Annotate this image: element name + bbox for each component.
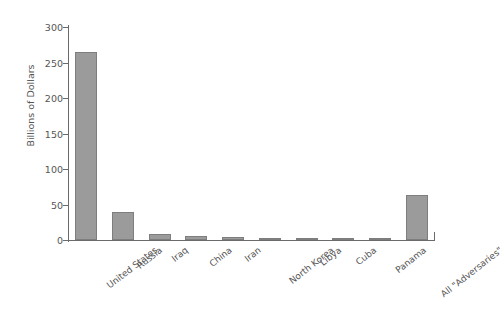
bar [296, 238, 318, 240]
y-tick-label: 150 [37, 128, 63, 139]
y-tick-label: 250 [37, 57, 63, 68]
x-tick-label: Cuba [354, 245, 378, 267]
bar-series [68, 27, 435, 240]
bar [185, 236, 207, 240]
bar [75, 52, 97, 240]
y-tick-label: 50 [37, 199, 63, 210]
plot-area: 050100150200250300 [68, 27, 435, 240]
x-tick-label: China [208, 245, 234, 269]
x-tick-label: Panama [394, 245, 429, 275]
y-tick-mark [63, 240, 68, 241]
x-tick-label: Iran [243, 245, 263, 264]
y-tick-label: 300 [37, 22, 63, 33]
bar [222, 237, 244, 240]
y-tick-label: 100 [37, 164, 63, 175]
y-axis-title: Billions of Dollars [25, 36, 36, 176]
bar [149, 234, 171, 240]
bar [369, 238, 391, 240]
bar [332, 238, 354, 240]
bar [259, 238, 281, 240]
x-axis-line [68, 240, 435, 241]
y-tick-label: 0 [37, 235, 63, 246]
bar [406, 195, 428, 240]
x-tick-label: All "Adversaries" [439, 245, 504, 299]
x-tick-label: Iraq [169, 245, 189, 264]
y-tick-label: 200 [37, 93, 63, 104]
bar [112, 212, 134, 240]
